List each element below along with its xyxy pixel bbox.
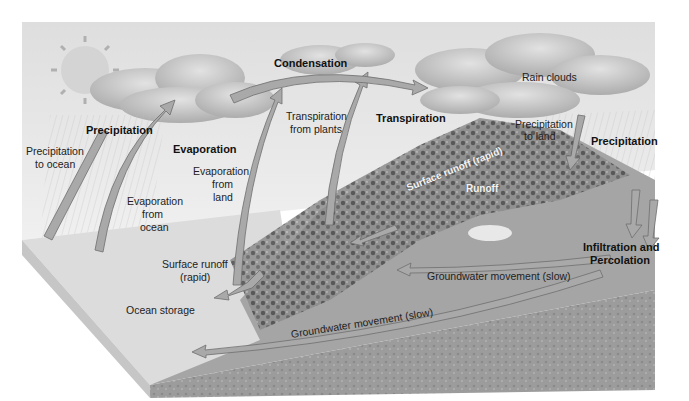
label-precipitation-to-ocean-1: Precipitation bbox=[26, 145, 84, 157]
label-surface-runoff-2: (rapid) bbox=[180, 271, 210, 283]
label-transpiration-from-plants-1: Transpiration bbox=[286, 110, 347, 122]
label-infiltration-1: Infiltration and bbox=[583, 241, 659, 253]
label-precipitation-to-land-1: Precipitation bbox=[515, 118, 573, 130]
label-runoff: Runoff bbox=[466, 183, 498, 195]
label-infiltration-2: Percolation bbox=[590, 254, 650, 266]
label-rain-clouds: Rain clouds bbox=[522, 71, 577, 83]
label-evaporation-from-land-2: from bbox=[212, 178, 233, 190]
label-surface-runoff-1: Surface runoff bbox=[162, 258, 228, 270]
label-groundwater-upper: Groundwater movement (slow) bbox=[427, 270, 571, 282]
label-evaporation-from-ocean-2: from bbox=[142, 208, 163, 220]
label-precipitation-right: Precipitation bbox=[591, 135, 658, 147]
label-precipitation-to-land-2: to land bbox=[524, 130, 556, 142]
label-ocean-storage: Ocean storage bbox=[126, 304, 195, 316]
label-transpiration: Transpiration bbox=[376, 112, 446, 124]
label-precipitation-to-ocean-2: to ocean bbox=[35, 158, 75, 170]
lake bbox=[468, 225, 512, 241]
water-cycle-diagram: Precipitation Precipitation to ocean Eva… bbox=[0, 0, 689, 401]
label-condensation: Condensation bbox=[274, 57, 347, 69]
label-evaporation: Evaporation bbox=[173, 143, 237, 155]
label-evaporation-from-land-3: land bbox=[213, 191, 233, 203]
label-precipitation-left: Precipitation bbox=[86, 124, 153, 136]
label-evaporation-from-land-1: Evaporation bbox=[193, 165, 249, 177]
label-evaporation-from-ocean-3: ocean bbox=[140, 221, 169, 233]
label-transpiration-from-plants-2: from plants bbox=[290, 123, 342, 135]
label-evaporation-from-ocean-1: Evaporation bbox=[127, 195, 183, 207]
